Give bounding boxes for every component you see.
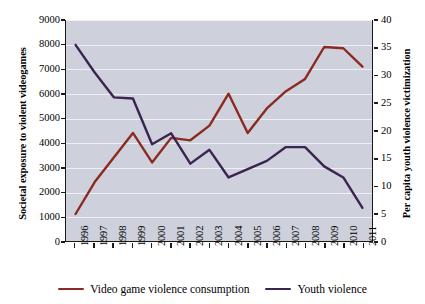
chart-legend: Video game violence consumptionYouth vio… (0, 283, 425, 295)
x-tick-mark (286, 243, 288, 248)
y-tick-label-left: 5000 (39, 113, 60, 124)
y-tick-mark-right (374, 102, 378, 104)
y-tick-label-left: 4000 (39, 138, 60, 149)
y-tick-label-right: 15 (381, 153, 392, 164)
x-tick-mark (74, 243, 76, 248)
y-tick-mark-left (61, 118, 65, 120)
x-tick-label: 2002 (194, 226, 205, 246)
x-tick-mark (189, 243, 191, 248)
legend-label: Video game violence consumption (90, 283, 249, 295)
y-tick-label-left: 0 (55, 237, 60, 248)
x-tick-mark (132, 243, 134, 248)
x-tick-mark (247, 243, 249, 248)
y-tick-mark-left (61, 69, 65, 71)
y-tick-label-right: 35 (381, 42, 392, 53)
y-tick-mark-left (61, 192, 65, 194)
x-tick-label: 1996 (79, 226, 90, 246)
x-tick-label: 2011 (367, 226, 378, 246)
y-tick-mark-left (61, 217, 65, 219)
x-tick-mark (93, 243, 95, 248)
x-tick-mark (209, 243, 211, 248)
legend-entry: Video game violence consumption (58, 283, 249, 295)
y-tick-label-left: 3000 (39, 163, 60, 174)
y-tick-label-right: 30 (381, 70, 392, 81)
y-tick-label-right: 5 (381, 209, 386, 220)
x-tick-label: 1998 (117, 226, 128, 246)
x-tick-mark (324, 243, 326, 248)
y-tick-mark-right (374, 186, 378, 188)
y-tick-label-left: 6000 (39, 89, 60, 100)
y-tick-mark-right (374, 241, 378, 243)
x-tick-mark (363, 243, 365, 248)
x-tick-mark (266, 243, 268, 248)
y-axis-left-ticks: 0100020003000400050006000700080009000 (26, 0, 60, 304)
x-tick-label: 2008 (310, 226, 321, 246)
x-tick-label: 2007 (290, 226, 301, 246)
y-tick-label-right: 20 (381, 126, 392, 137)
x-tick-label: 2010 (348, 226, 359, 246)
series-lines (66, 20, 372, 241)
x-tick-label: 2003 (213, 226, 224, 246)
y-tick-mark-left (61, 19, 65, 21)
x-tick-mark (112, 243, 114, 248)
x-tick-mark (305, 243, 307, 248)
legend-swatch-icon (58, 288, 84, 291)
y-tick-mark-left (61, 167, 65, 169)
x-tick-mark (343, 243, 345, 248)
y-axis-right-ticks: 0510152025303540 (381, 0, 407, 304)
series-line (76, 47, 363, 214)
y-tick-mark-right (374, 47, 378, 49)
x-tick-label: 1997 (98, 226, 109, 246)
y-tick-mark-right (374, 158, 378, 160)
series-line (76, 45, 363, 208)
x-tick-label: 1999 (136, 226, 147, 246)
y-tick-mark-left (61, 241, 65, 243)
y-tick-mark-left (61, 143, 65, 145)
y-tick-mark-right (374, 19, 378, 21)
x-tick-label: 2005 (252, 226, 263, 246)
x-axis-ticks: 1996199719981999200020012002200320042005… (65, 244, 373, 288)
y-tick-label-left: 2000 (39, 187, 60, 198)
y-tick-label-right: 25 (381, 98, 392, 109)
y-tick-mark-right (374, 75, 378, 77)
y-tick-label-right: 0 (381, 237, 386, 248)
x-tick-label: 2006 (271, 226, 282, 246)
y-tick-label-left: 9000 (39, 15, 60, 26)
legend-swatch-icon (265, 288, 291, 291)
x-tick-label: 2009 (329, 226, 340, 246)
x-tick-mark (170, 243, 172, 248)
legend-label: Youth violence (297, 283, 366, 295)
y-tick-mark-left (61, 44, 65, 46)
chart-figure: Societal exposure to violent videogames … (0, 0, 425, 304)
x-tick-label: 2000 (156, 226, 167, 246)
x-tick-mark (228, 243, 230, 248)
plot-area (65, 20, 373, 242)
y-tick-label-left: 8000 (39, 39, 60, 50)
y-tick-label-left: 7000 (39, 64, 60, 75)
x-tick-label: 2004 (233, 226, 244, 246)
legend-entry: Youth violence (265, 283, 366, 295)
y-tick-mark-right (374, 130, 378, 132)
y-tick-label-right: 40 (381, 15, 392, 26)
x-tick-mark (151, 243, 153, 248)
y-tick-label-left: 1000 (39, 212, 60, 223)
y-tick-label-right: 10 (381, 181, 392, 192)
y-tick-mark-left (61, 93, 65, 95)
y-tick-mark-right (374, 213, 378, 215)
x-tick-label: 2001 (175, 226, 186, 246)
